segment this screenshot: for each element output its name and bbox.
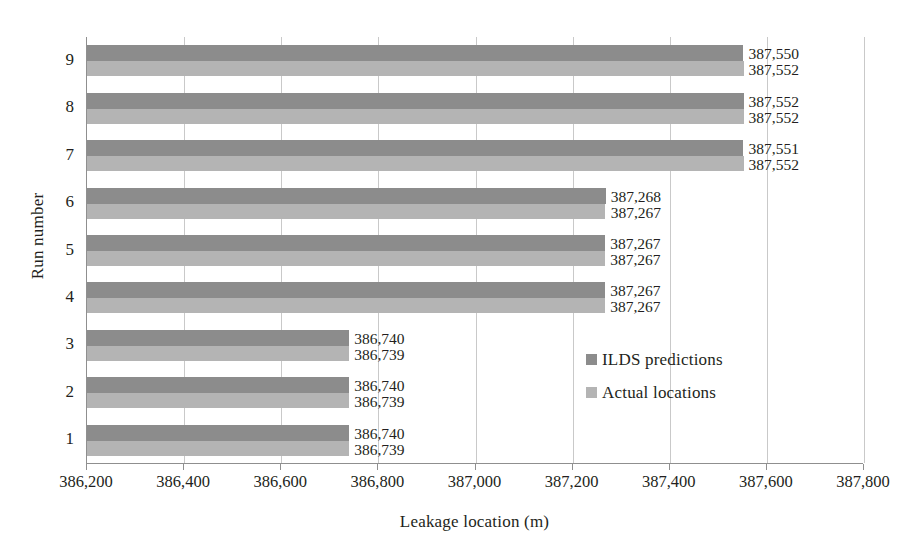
y-axis-category-label: 6 xyxy=(44,192,74,212)
bar-value-label-prediction: 387,550 xyxy=(749,46,799,62)
bar-ilds-prediction xyxy=(87,93,744,109)
x-axis-tick xyxy=(669,464,670,470)
bar-value-label-prediction: 386,740 xyxy=(354,426,404,442)
bar-actual-location xyxy=(87,61,744,76)
y-axis-category-label: 9 xyxy=(44,50,74,70)
bar-value-label-prediction: 387,552 xyxy=(749,94,799,110)
bar-value-label-prediction: 387,551 xyxy=(749,141,799,157)
bar-actual-location xyxy=(87,109,744,124)
bar-value-label-actual: 386,739 xyxy=(354,442,404,458)
bar-ilds-prediction xyxy=(87,188,606,204)
bar-ilds-prediction xyxy=(87,45,743,61)
x-axis-tick xyxy=(183,464,184,470)
legend-item-label: Actual locations xyxy=(602,383,716,403)
bar-value-label-actual: 387,552 xyxy=(749,110,799,126)
bar-actual-location xyxy=(87,441,349,456)
plot-area xyxy=(86,37,863,464)
y-axis-category-label: 2 xyxy=(44,382,74,402)
bar-actual-location xyxy=(87,251,605,266)
bar-value-label-prediction: 386,740 xyxy=(354,378,404,394)
legend-item: ILDS predictions xyxy=(586,343,723,376)
bar-value-label-actual: 387,552 xyxy=(749,157,799,173)
x-axis-tick xyxy=(86,464,87,470)
legend-item-label: ILDS predictions xyxy=(602,350,723,370)
x-axis-tick xyxy=(475,464,476,470)
y-axis-category-label: 3 xyxy=(44,334,74,354)
bar-ilds-prediction xyxy=(87,330,349,346)
legend-item: Actual locations xyxy=(586,376,723,409)
bar-value-label-actual: 386,739 xyxy=(354,394,404,410)
x-axis-tick xyxy=(863,464,864,470)
bar-value-label-actual: 387,267 xyxy=(610,299,660,315)
x-axis-tick xyxy=(766,464,767,470)
bar-value-label-prediction: 387,268 xyxy=(611,189,661,205)
bar-value-label-actual: 387,267 xyxy=(610,252,660,268)
y-axis-category-label: 5 xyxy=(44,240,74,260)
x-axis-title: Leakage location (m) xyxy=(86,512,863,532)
chart-legend: ILDS predictionsActual locations xyxy=(586,343,723,409)
bar-chart: Run number 386,200386,400386,600386,8003… xyxy=(0,0,900,554)
bar-ilds-prediction xyxy=(87,140,743,156)
y-axis-category-label: 1 xyxy=(44,429,74,449)
legend-swatch-icon xyxy=(586,354,597,365)
bar-ilds-prediction xyxy=(87,377,349,393)
bar-ilds-prediction xyxy=(87,425,349,441)
bar-ilds-prediction xyxy=(87,235,605,251)
bar-actual-location xyxy=(87,156,744,171)
bar-ilds-prediction xyxy=(87,282,605,298)
bar-value-label-prediction: 386,740 xyxy=(354,331,404,347)
bar-value-label-actual: 387,267 xyxy=(611,205,661,221)
bar-value-label-actual: 386,739 xyxy=(354,347,404,363)
bar-value-label-prediction: 387,267 xyxy=(610,283,660,299)
x-axis-tick xyxy=(572,464,573,470)
bar-actual-location xyxy=(87,346,349,361)
bar-value-label-prediction: 387,267 xyxy=(610,236,660,252)
bar-actual-location xyxy=(87,393,349,408)
bar-actual-location xyxy=(87,204,605,219)
x-gridline xyxy=(864,37,865,463)
y-axis-category-label: 4 xyxy=(44,287,74,307)
x-axis-tick-label: 387,800 xyxy=(803,472,900,492)
bar-actual-location xyxy=(87,298,605,313)
bar-value-label-actual: 387,552 xyxy=(749,62,799,78)
y-axis-category-label: 8 xyxy=(44,97,74,117)
y-axis-category-label: 7 xyxy=(44,145,74,165)
legend-swatch-icon xyxy=(586,387,597,398)
x-axis-tick xyxy=(280,464,281,470)
x-axis-tick xyxy=(377,464,378,470)
